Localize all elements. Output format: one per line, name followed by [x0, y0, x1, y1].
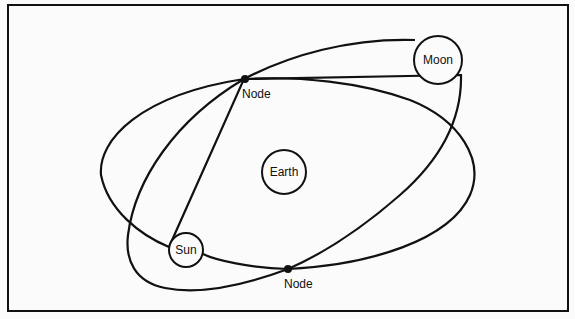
orbit-diagram: Earth Moon Sun Node Node — [0, 0, 575, 319]
node-upper-label: Node — [242, 87, 271, 101]
earth: Earth — [262, 150, 306, 194]
sun-label: Sun — [175, 243, 196, 257]
node-upper-dot — [241, 75, 249, 83]
moon-label: Moon — [423, 53, 453, 67]
node-lower-label: Node — [284, 277, 313, 291]
sun: Sun — [169, 233, 203, 267]
moon: Moon — [414, 36, 462, 84]
earth-label: Earth — [270, 165, 299, 179]
node-lower-dot — [284, 265, 292, 273]
